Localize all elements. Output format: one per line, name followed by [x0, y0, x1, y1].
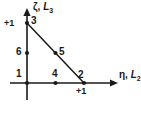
horizontal-axis-label: η, L2: [119, 70, 141, 82]
node-label-6: 6: [16, 47, 22, 57]
node-label-2: 2: [78, 70, 84, 80]
node-marker-2: [82, 81, 86, 85]
node-label-3: 3: [31, 16, 37, 26]
vertical-axis-label-subscript: 3: [49, 7, 53, 14]
horizontal-axis-tick-label: +1: [76, 87, 86, 96]
node-marker-1: [25, 81, 29, 85]
horizontal-axis-arrowhead: [110, 79, 118, 86]
node-marker-4: [53, 81, 57, 85]
triangular-element-figure: ζ, L3 η, L2 +1 +1 1 2 3 4 5 6: [0, 0, 141, 113]
vertical-axis-tick-label: +1: [4, 19, 14, 28]
horizontal-axis-label-subscript: 2: [137, 75, 141, 82]
node-marker-3: [25, 21, 29, 25]
node-marker-5: [53, 51, 57, 55]
node-label-5: 5: [59, 47, 65, 57]
vertical-axis-label: ζ, L3: [33, 2, 53, 14]
node-label-4: 4: [52, 69, 58, 79]
vertical-axis-arrowhead: [23, 8, 30, 16]
node-label-1: 1: [16, 69, 22, 79]
node-marker-6: [25, 51, 29, 55]
